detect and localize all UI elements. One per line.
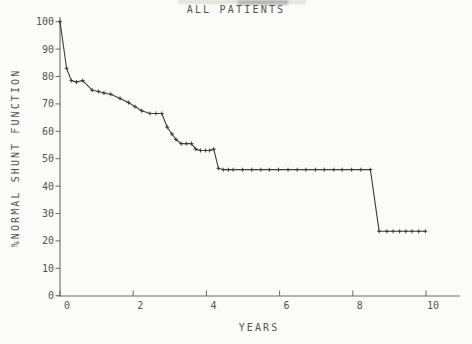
y-tick-label: 30 bbox=[42, 208, 54, 219]
chart-canvas: 02468100102030405060708090100 bbox=[0, 0, 472, 344]
x-tick-label: 0 bbox=[64, 300, 70, 311]
y-tick-label: 40 bbox=[42, 181, 54, 192]
x-tick-label: 6 bbox=[284, 300, 290, 311]
y-tick-label: 10 bbox=[42, 263, 54, 274]
y-tick-label: 70 bbox=[42, 98, 54, 109]
x-tick-label: 8 bbox=[357, 300, 363, 311]
y-tick-label: 20 bbox=[42, 235, 54, 246]
x-axis-title: YEARS bbox=[46, 322, 472, 333]
data-point-markers bbox=[58, 20, 427, 234]
y-tick-label: 100 bbox=[36, 16, 54, 27]
scanned-chart-page: ALL PATIENTS %NORMAL SHUNT FUNCTION 0246… bbox=[0, 0, 472, 344]
y-tick-label: 0 bbox=[48, 290, 54, 301]
y-tick-label: 80 bbox=[42, 71, 54, 82]
y-tick-label: 50 bbox=[42, 153, 54, 164]
axis-lines bbox=[58, 17, 461, 296]
y-tick-label: 90 bbox=[42, 44, 54, 55]
x-tick-label: 2 bbox=[137, 300, 143, 311]
x-tick-label: 4 bbox=[210, 300, 216, 311]
survival-curve bbox=[60, 22, 425, 232]
x-tick-label: 10 bbox=[427, 300, 439, 311]
y-tick-label: 60 bbox=[42, 126, 54, 137]
